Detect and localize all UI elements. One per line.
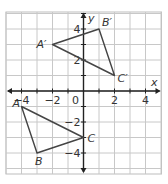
vertex-label: B′: [102, 16, 113, 29]
vertex-label: A: [12, 97, 21, 110]
coordinate-plane: −4−202442−2−4 ABCA′B′C′ x y: [0, 0, 168, 184]
y-axis-label: y: [87, 12, 95, 25]
x-axis-label: x: [150, 76, 158, 89]
x-tick-label: −2: [44, 94, 60, 107]
vertex-label: C′: [118, 72, 129, 85]
x-tick-label: 2: [111, 94, 118, 107]
y-tick-label: −2: [64, 116, 80, 129]
y-tick-label: −4: [64, 147, 80, 160]
vertex-label: B: [35, 155, 43, 168]
vertex-label: A′: [36, 38, 48, 51]
y-tick-label: 4: [74, 23, 81, 36]
vertex-label: C: [88, 132, 96, 145]
x-tick-label: 0: [72, 94, 79, 107]
x-tick-label: 4: [142, 94, 149, 107]
